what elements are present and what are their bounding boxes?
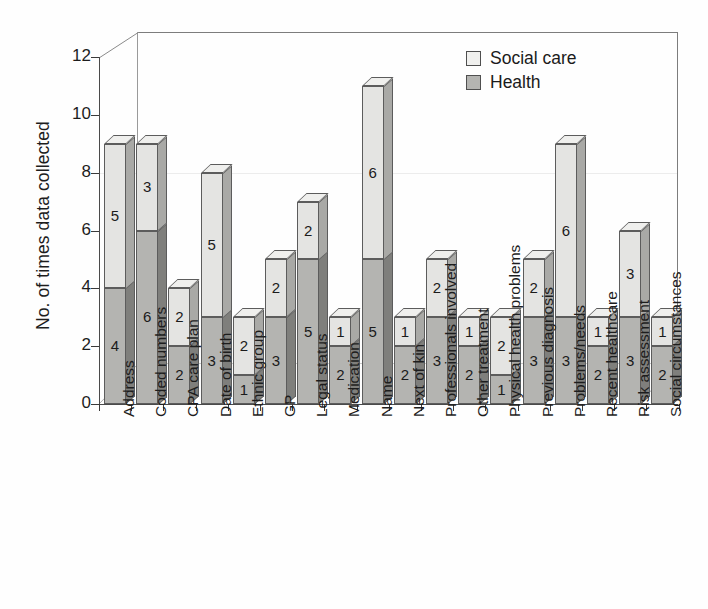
y-tick-label: 0 [55, 393, 91, 413]
legend-item-health: Health [466, 70, 577, 94]
plot-area: 024681012 456322351232522156213221123236… [0, 0, 708, 609]
bar-value-label-social-care: 5 [201, 237, 223, 252]
legend-label-health: Health [490, 72, 541, 93]
legend: Social care Health [466, 46, 577, 94]
bar-value-label-health: 3 [265, 353, 287, 368]
y-tick-label: 4 [55, 277, 91, 297]
x-axis-label: Professionals involved [442, 263, 460, 417]
bar-value-label-social-care: 3 [136, 179, 158, 194]
x-axis-label: Previous diagnosis [539, 287, 557, 417]
bar-value-label-social-care: 6 [362, 165, 384, 180]
x-axis-label: Medication [345, 342, 363, 417]
bar-side-health [287, 309, 296, 404]
legend-label-social-care: Social care [490, 48, 577, 69]
y-tick-label: 6 [55, 220, 91, 240]
y-tick-mark [91, 288, 99, 289]
x-axis-label: Social circumstances [667, 271, 685, 417]
x-axis-label: Legal status [313, 333, 331, 417]
y-tick-mark [91, 57, 99, 58]
bar-value-label-social-care: 5 [104, 208, 126, 223]
chart-container: No. of times data collected 024681012 45… [0, 0, 708, 609]
y-tick-mark [91, 115, 99, 116]
bar-value-label-social-care: 1 [394, 324, 416, 339]
x-axis-label: Risk assessment [635, 300, 653, 417]
y-tick-label: 2 [55, 335, 91, 355]
bar-value-label-social-care: 6 [555, 223, 577, 238]
y-tick-mark [91, 346, 99, 347]
bar-column: 32 [265, 0, 287, 404]
y-tick-mark [91, 231, 99, 232]
x-axis-label: Physical health problems [506, 245, 524, 417]
legend-item-social-care: Social care [466, 46, 577, 70]
x-axis-label: Problems/needs [571, 305, 589, 417]
bar-value-label-health: 4 [104, 338, 126, 353]
bar-column: 56 [362, 0, 384, 404]
x-axis-label: Ethnic group [249, 330, 267, 417]
bar-side-social-care [126, 136, 135, 288]
bar-value-label-social-care: 2 [297, 223, 319, 238]
bar-value-label-social-care: 3 [619, 266, 641, 281]
y-tick-mark [91, 404, 99, 405]
x-axis-label: Address [120, 360, 138, 417]
legend-swatch-health-icon [466, 75, 481, 90]
x-axis-label: Coded numbers [152, 307, 170, 417]
x-axis-label: GP [281, 395, 299, 417]
bar-side-social-care [384, 78, 393, 259]
x-axis-label: Name [378, 376, 396, 417]
bar-value-label-social-care: 1 [329, 324, 351, 339]
x-axis-label: Other treatment [474, 308, 492, 417]
y-tick-mark [91, 173, 99, 174]
x-axis-label: Next of kin [410, 344, 428, 417]
bar-side-social-care [287, 252, 296, 318]
legend-swatch-social-care-icon [466, 51, 481, 66]
bar-side-social-care [577, 136, 586, 317]
y-tick-label: 10 [55, 104, 91, 124]
bar-side-social-care [223, 165, 232, 317]
y-tick-label: 12 [55, 46, 91, 66]
bar-value-label-health: 5 [362, 324, 384, 339]
y-axis-line [99, 57, 100, 405]
bar-side-social-care [158, 136, 167, 231]
x-axis-label: CPA care plan [184, 319, 202, 417]
bar-side-social-care [319, 194, 328, 260]
x-axis-label: Date of birth [217, 333, 235, 417]
bar-column: 45 [104, 0, 126, 404]
y-tick-label: 8 [55, 162, 91, 182]
x-tick-mark [99, 404, 100, 411]
x-axis-label: Recent healthcare [603, 291, 621, 417]
bar-value-label-social-care: 2 [265, 280, 287, 295]
